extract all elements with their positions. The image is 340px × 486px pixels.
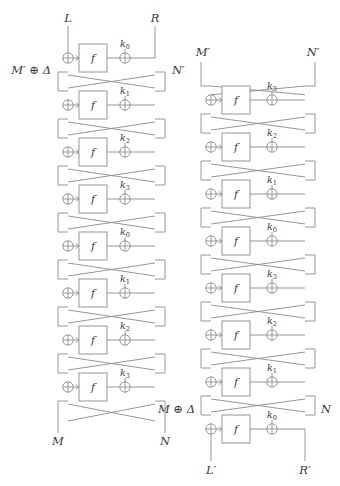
left-crossover-7-left-bus	[58, 354, 68, 373]
left-label-M: M	[51, 434, 65, 448]
left-label-N: N	[159, 434, 171, 448]
right-round-6-key-xor	[267, 330, 277, 340]
left-final-left-bus	[58, 401, 68, 421]
left-round-4-left-xor	[63, 194, 73, 204]
right-label-Nprime: N′	[306, 45, 320, 59]
left-round-8-left-xor	[63, 382, 73, 392]
right-crossover-4-right-bus	[305, 255, 315, 274]
right-crossover-5-right-bus	[305, 302, 315, 321]
left-crossover-7-right-bus	[155, 354, 165, 373]
left-crossover-1-left-bus	[58, 72, 68, 91]
right-crossover-5-left-bus	[201, 302, 211, 321]
right-top-left-bus	[201, 62, 211, 86]
right-crossover-2-right-bus	[305, 161, 315, 180]
left-round-2-key-xor	[120, 100, 130, 110]
left-round-3-key-xor	[120, 147, 130, 157]
right-crossover-1-left-bus	[201, 114, 211, 133]
right-label-Mprime: M′	[195, 45, 211, 59]
right-round-3-key-xor	[267, 189, 277, 199]
left-crossover-3-left-bus	[58, 166, 68, 185]
left-round-1-left-xor	[63, 53, 73, 63]
right-round-8-key-xor	[267, 424, 277, 434]
feistel-diagram: LRfk0fk1fk2fk3fk0fk1fk2fk3M′ ⊕ ΔN′MNM′N′…	[0, 0, 340, 486]
left-label-R: R	[150, 11, 160, 25]
right-crossover-6-right-bus	[305, 349, 315, 368]
left-crossover-2-right-bus	[155, 119, 165, 138]
left-crossover-5-right-bus	[155, 260, 165, 279]
left-round-5-key-xor	[120, 241, 130, 251]
right-top-right-bus	[305, 62, 315, 86]
left-round-4-key-xor	[120, 194, 130, 204]
right-round-1-left-xor	[206, 95, 216, 105]
right-round-7-left-xor	[206, 377, 216, 387]
right-round-2-left-xor	[206, 142, 216, 152]
left-label-Mprime-delta: M′ ⊕ Δ	[10, 63, 51, 77]
left-round-3-left-xor	[63, 147, 73, 157]
left-round-8-key-xor	[120, 382, 130, 392]
diagram-canvas: LRfk0fk1fk2fk3fk0fk1fk2fk3M′ ⊕ ΔN′MNM′N′…	[0, 0, 340, 486]
right-crossover-2-left-bus	[201, 161, 211, 180]
right-round-1-key-xor	[267, 95, 277, 105]
left-round-6-left-xor	[63, 288, 73, 298]
right-crossover-1-right-bus	[305, 114, 315, 133]
right-crossover-3-left-bus	[201, 208, 211, 227]
left-round-7-key-xor	[120, 335, 130, 345]
left-round-6-key-xor	[120, 288, 130, 298]
right-round-4-key-xor	[267, 236, 277, 246]
left-crossover-6-left-bus	[58, 307, 68, 326]
right-round-5-key-xor	[267, 283, 277, 293]
right-round-3-left-xor	[206, 189, 216, 199]
right-round-7-key-xor	[267, 377, 277, 387]
right-label-Rprime: R′	[298, 463, 311, 477]
right-round-4-left-xor	[206, 236, 216, 246]
left-crossover-6-right-bus	[155, 307, 165, 326]
right-crossover-7-right-bus	[305, 396, 315, 415]
left-crossover-3-right-bus	[155, 166, 165, 185]
right-label-N: N	[320, 402, 332, 416]
left-round-5-left-xor	[63, 241, 73, 251]
left-round-7-left-xor	[63, 335, 73, 345]
right-crossover-3-right-bus	[305, 208, 315, 227]
right-round-8-left-xor	[206, 424, 216, 434]
right-crossover-6-left-bus	[201, 349, 211, 368]
right-crossover-4-left-bus	[201, 255, 211, 274]
left-round-1-key-xor	[120, 53, 130, 63]
left-crossover-1-right-bus	[155, 72, 165, 91]
right-round-6-left-xor	[206, 330, 216, 340]
left-crossover-5-left-bus	[58, 260, 68, 279]
left-round-2-left-xor	[63, 100, 73, 110]
right-crossover-7-left-bus	[201, 396, 211, 415]
left-crossover-4-left-bus	[58, 213, 68, 232]
right-label-Lprime: L′	[205, 463, 217, 477]
left-crossover-4-right-bus	[155, 213, 165, 232]
right-round-5-left-xor	[206, 283, 216, 293]
right-label-M-delta: M ⊕ Δ	[157, 402, 195, 416]
left-label-Nprime: N′	[171, 63, 185, 77]
left-label-L: L	[63, 11, 72, 25]
right-round-2-key-xor	[267, 142, 277, 152]
left-crossover-2-left-bus	[58, 119, 68, 138]
